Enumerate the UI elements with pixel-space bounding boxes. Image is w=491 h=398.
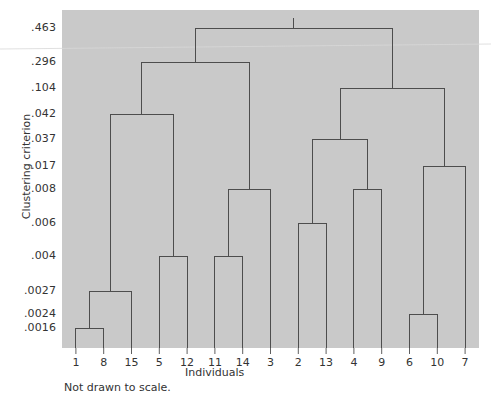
figure-caption: Not drawn to scale. [64, 381, 171, 394]
x-tick-label: 9 [368, 356, 396, 369]
dendrogram-plot [0, 0, 491, 398]
x-tick-label: 3 [257, 356, 285, 369]
x-tick-label: 5 [145, 356, 173, 369]
x-tick-label: 1 [62, 356, 90, 369]
x-axis-title: Individuals [185, 366, 244, 379]
y-tick-label: .0024 [0, 307, 56, 320]
x-tick-label: 15 [118, 356, 146, 369]
dendrogram-figure: .463.296.104.042.037.017.008.006.004.002… [0, 0, 491, 398]
x-tick-label: 8 [90, 356, 118, 369]
x-tick-label: 13 [312, 356, 340, 369]
x-tick-label: 2 [284, 356, 312, 369]
x-tick-label: 7 [451, 356, 479, 369]
y-tick-label: .004 [0, 249, 56, 262]
y-tick-label: .0016 [0, 321, 56, 334]
y-tick-label: .0027 [0, 284, 56, 297]
y-tick-label: .463 [0, 21, 56, 34]
x-axis-ticks [76, 348, 465, 354]
y-tick-label: .296 [0, 55, 56, 68]
y-axis-title: Clustering criterion [20, 97, 33, 237]
y-tick-label: .104 [0, 81, 56, 94]
x-tick-label: 6 [396, 356, 424, 369]
x-tick-label: 4 [340, 356, 368, 369]
x-tick-label: 10 [423, 356, 451, 369]
